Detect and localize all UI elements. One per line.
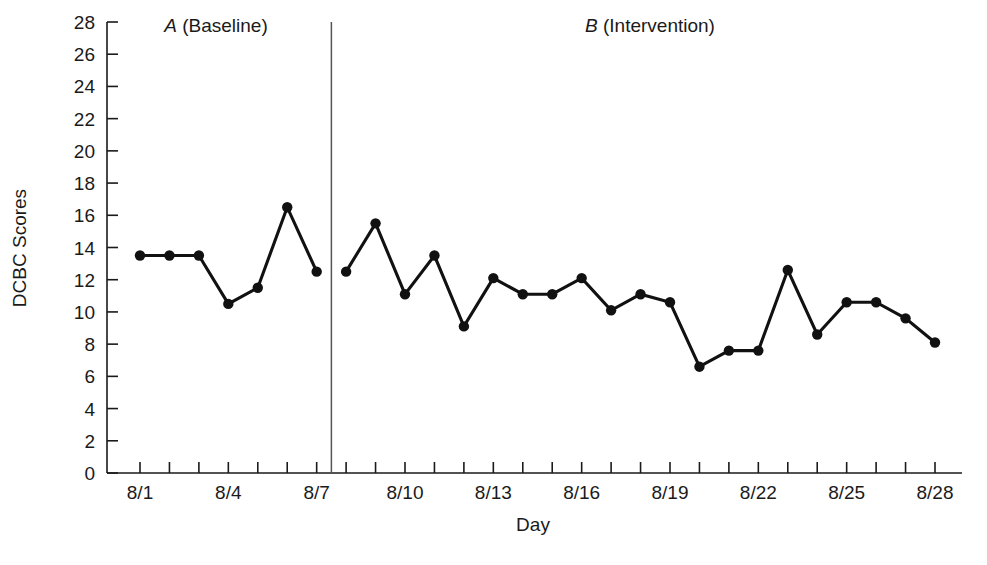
x-tick-label: 8/1 — [127, 482, 153, 503]
y-tick-label: 28 — [74, 12, 95, 33]
data-point — [665, 297, 675, 307]
x-tick-label: 8/4 — [215, 482, 242, 503]
y-tick-label: 0 — [84, 463, 95, 484]
data-point — [311, 266, 321, 276]
phase-b-descriptor: (Intervention) — [598, 15, 715, 36]
phase-a-descriptor: (Baseline) — [177, 15, 268, 36]
phase-b-letter: B — [585, 15, 598, 36]
data-point — [635, 289, 645, 299]
y-axis-tick-labels: 0246810121416182022242628 — [74, 12, 96, 484]
data-point — [812, 329, 822, 339]
data-point — [370, 218, 380, 228]
data-point — [253, 283, 263, 293]
y-tick-label: 24 — [74, 76, 96, 97]
x-tick-label: 8/13 — [475, 482, 512, 503]
y-tick-label: 16 — [74, 205, 95, 226]
x-tick-label: 8/10 — [387, 482, 424, 503]
single-case-design-chart: 0246810121416182022242628 8/18/48/78/108… — [0, 0, 987, 565]
data-point — [871, 297, 881, 307]
data-point — [223, 299, 233, 309]
data-point — [606, 305, 616, 315]
data-point — [400, 289, 410, 299]
x-tick-label: 8/16 — [563, 482, 600, 503]
y-tick-label: 2 — [84, 431, 95, 452]
phase-a-label: A (Baseline) — [163, 15, 268, 36]
y-tick-label: 10 — [74, 302, 95, 323]
y-tick-label: 4 — [84, 399, 95, 420]
data-point — [459, 321, 469, 331]
phase-b-label: B (Intervention) — [585, 15, 715, 36]
data-point — [930, 337, 940, 347]
y-tick-label: 20 — [74, 141, 95, 162]
x-tick-label: 8/28 — [917, 482, 954, 503]
chart-canvas: 0246810121416182022242628 8/18/48/78/108… — [0, 0, 987, 565]
phase-a-letter: A — [163, 15, 177, 36]
y-tick-label: 12 — [74, 270, 95, 291]
data-point — [341, 266, 351, 276]
x-tick-label: 8/22 — [740, 482, 777, 503]
y-tick-label: 8 — [84, 334, 95, 355]
y-axis-ticks — [107, 22, 118, 473]
data-point — [576, 273, 586, 283]
y-tick-label: 6 — [84, 366, 95, 387]
data-point — [753, 345, 763, 355]
data-point — [783, 265, 793, 275]
data-point — [694, 361, 704, 371]
series-markers-intervention — [341, 218, 940, 372]
data-point — [900, 313, 910, 323]
data-point — [164, 250, 174, 260]
y-tick-label: 26 — [74, 44, 95, 65]
data-point — [429, 250, 439, 260]
data-point — [724, 345, 734, 355]
y-tick-label: 14 — [74, 238, 96, 259]
y-tick-label: 22 — [74, 109, 95, 130]
data-point — [194, 250, 204, 260]
x-tick-label: 8/7 — [303, 482, 329, 503]
data-point — [547, 289, 557, 299]
x-tick-label: 8/25 — [828, 482, 865, 503]
data-point — [282, 202, 292, 212]
y-tick-label: 18 — [74, 173, 95, 194]
x-axis-title: Day — [516, 514, 550, 535]
data-point — [488, 273, 498, 283]
data-point — [135, 250, 145, 260]
data-point — [841, 297, 851, 307]
y-axis-title: DCBC Scores — [9, 189, 30, 307]
x-axis-tick-labels: 8/18/48/78/108/138/168/198/228/258/28 — [127, 482, 954, 503]
data-point — [518, 289, 528, 299]
x-tick-label: 8/19 — [652, 482, 689, 503]
x-axis-ticks — [140, 462, 935, 473]
